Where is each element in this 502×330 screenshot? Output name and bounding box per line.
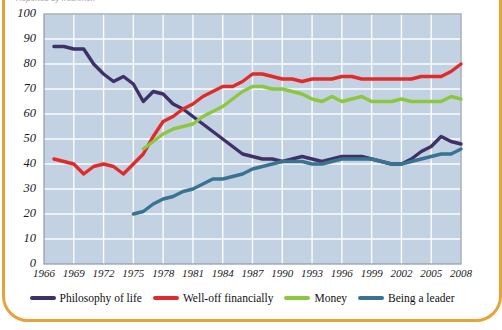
legend-swatch-icon xyxy=(284,296,310,300)
y-axis-tick-label: 90 xyxy=(4,31,36,46)
legend-label: Philosophy of life xyxy=(60,292,142,304)
y-axis-tick-label: 60 xyxy=(4,106,36,121)
y-axis-tick-label: 20 xyxy=(4,206,36,221)
legend-swatch-icon xyxy=(30,296,56,300)
y-axis-tick-label: 100 xyxy=(4,6,36,21)
x-axis-tick-label: 2008 xyxy=(441,267,481,279)
y-axis-tick-label: 70 xyxy=(4,81,36,96)
legend-item-money[interactable]: Money xyxy=(284,292,347,304)
legend-label: Being a leader xyxy=(388,292,454,304)
legend-label: Well-off financially xyxy=(183,292,274,304)
y-axis-tick-label: 10 xyxy=(4,231,36,246)
legend-swatch-icon xyxy=(358,296,384,300)
legend-item-philosophy[interactable]: Philosophy of life xyxy=(30,292,142,304)
chart-legend: Philosophy of lifeWell-off financiallyMo… xyxy=(0,292,484,304)
y-axis-tick-label: 40 xyxy=(4,156,36,171)
legend-swatch-icon xyxy=(153,296,179,300)
y-axis-tick-label: 80 xyxy=(4,56,36,71)
legend-label: Money xyxy=(314,292,347,304)
y-axis-tick-label: 30 xyxy=(4,181,36,196)
legend-item-welloff[interactable]: Well-off financially xyxy=(153,292,274,304)
y-axis-tick-label: 50 xyxy=(4,131,36,146)
legend-item-leader[interactable]: Being a leader xyxy=(358,292,454,304)
